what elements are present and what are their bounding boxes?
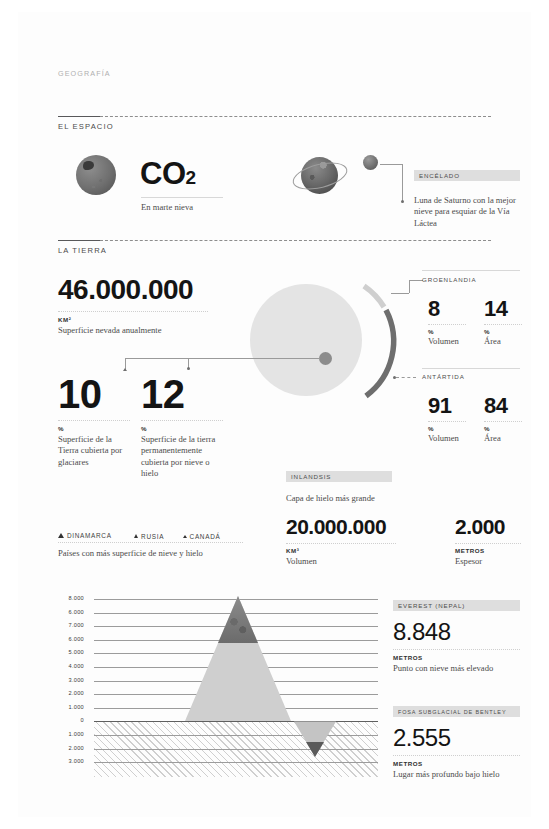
encelado-caption: Luna de Saturno con la mejor nieve para …	[414, 195, 520, 229]
co2-subscript: 2	[186, 167, 196, 188]
ticklabel-5: 4.000	[58, 663, 84, 669]
antartida-rule	[422, 368, 520, 369]
country-item-rusia: RUSIA	[134, 533, 164, 540]
leader-dot-12	[187, 367, 190, 370]
tag-groenlandia-label: GROENLANDIA	[422, 276, 476, 283]
mars-moon-icon	[76, 155, 116, 195]
countries-caption: Países con más superficie de nieve y hie…	[58, 548, 268, 559]
elevation-chart: 8.000 6.000 7.000 6.000 5.000 4.000 3.00…	[58, 590, 378, 780]
everest-unit: METROS	[393, 654, 423, 661]
inlandsis-thickness-value: 2.000	[455, 515, 505, 539]
inlandsis-volume-value: 20.000.000	[286, 515, 386, 539]
greenland-volume-label: Volumen	[428, 336, 459, 347]
greenland-volume-value: 8	[428, 296, 440, 322]
everest-snowcap-shape	[218, 596, 258, 643]
ticklabel-2: 7.000	[58, 622, 84, 628]
ticklabel-0: 8.000	[58, 595, 84, 601]
tag-antartida: ANTÁRTIDA	[422, 371, 520, 382]
everest-value: 8.848	[393, 618, 451, 646]
ticklabel-11: 2.000	[58, 745, 84, 751]
groenlandia-rule	[422, 270, 520, 271]
enceladus-leader-v	[402, 164, 403, 202]
tag-groenlandia: GROENLANDIA	[422, 274, 520, 285]
snow-area-value: 46.000.000	[58, 274, 193, 306]
antarctica-volume-label: Volumen	[428, 433, 459, 444]
snow-area-divider	[58, 311, 208, 312]
infographic-page: GEOGRAFÍA EL ESPACIO CO2 En marte nieva …	[0, 0, 549, 829]
antarctica-leader-dot	[393, 376, 396, 379]
bentley-value: 2.555	[393, 724, 451, 752]
tag-bentley: FOSA SUBGLACIAL DE BENTLEY	[393, 706, 520, 717]
co2-label: CO	[140, 156, 186, 191]
inlandsis-caption: Capa de hielo más grande	[286, 493, 466, 504]
arc-greenland	[364, 286, 384, 307]
greenland-volume-unit: %	[428, 328, 434, 335]
triangle-large-icon	[58, 533, 64, 538]
inlandsis-volume-label: Volumen	[286, 556, 317, 567]
enceladus-icon	[363, 155, 378, 170]
ice-arcs	[318, 274, 428, 409]
saturn-icon	[292, 152, 346, 202]
tag-inlandsis: INLANDSIS	[286, 471, 392, 482]
snow-area-unit: KM²	[58, 316, 71, 323]
antarctica-volume-unit: %	[428, 425, 434, 432]
antarctica-area-value: 84	[484, 393, 507, 419]
section-rule-earth-solid	[58, 240, 100, 241]
antarctica-volume-divider	[428, 421, 466, 422]
permanent-unit: %	[141, 425, 147, 432]
inlandsis-thickness-divider	[455, 543, 521, 544]
tag-encelado-label: ENCÉLADO	[414, 172, 460, 179]
ticklabel-9: 0	[58, 717, 84, 723]
country-label-dinamarca: DINAMARCA	[67, 532, 112, 539]
greenland-leader-v	[409, 280, 410, 293]
countries-list: DINAMARCA RUSIA CANADÁ	[58, 524, 258, 542]
greenland-area-label: Área	[484, 336, 501, 347]
tag-antartida-label: ANTÁRTIDA	[422, 373, 465, 380]
gridline-8000	[94, 599, 378, 600]
ticklabel-7: 2.000	[58, 690, 84, 696]
inlandsis-volume-unit: KM³	[286, 547, 299, 554]
gridline-minus3000	[94, 762, 378, 763]
ticklabel-10: 1.000	[58, 731, 84, 737]
sheet: GEOGRAFÍA EL ESPACIO CO2 En marte nieva …	[18, 12, 531, 817]
greenland-leader-h2	[391, 293, 409, 294]
greenland-area-divider	[484, 324, 522, 325]
permanent-caption: Superficie de la tierra permanentemente …	[141, 434, 227, 480]
ticklabel-12: 3.000	[58, 758, 84, 764]
bentley-unit: METROS	[393, 760, 423, 767]
gridline-minus1000	[94, 735, 378, 736]
section-rule-space-dash	[100, 116, 491, 117]
ticklabel-6: 3.000	[58, 677, 84, 683]
antarctica-area-divider	[484, 421, 522, 422]
country-label-canada: CANADÁ	[190, 533, 221, 540]
countries-divider	[58, 542, 243, 543]
leader-arrow-10	[123, 368, 127, 371]
ticklabel-1: 6.000	[58, 609, 84, 615]
inlandsis-volume-divider	[286, 543, 396, 544]
tag-everest: EVEREST (NEPAL)	[393, 600, 520, 611]
greenland-leader-h	[409, 280, 423, 281]
page-title: GEOGRAFÍA	[58, 69, 111, 78]
inlandsis-thickness-unit: METROS	[455, 547, 485, 554]
greenland-volume-divider	[428, 324, 466, 325]
antarctica-area-unit: %	[484, 425, 490, 432]
enceladus-leader-h	[380, 164, 402, 165]
tag-bentley-label: FOSA SUBGLACIAL DE BENTLEY	[393, 709, 506, 715]
tag-encelado: ENCÉLADO	[414, 170, 520, 181]
permanent-value: 12	[141, 372, 185, 417]
antarctica-area-label: Área	[484, 433, 501, 444]
glaciers-caption: Superficie de la Tierra cubierta por gla…	[58, 434, 130, 468]
country-item-dinamarca: DINAMARCA	[58, 532, 112, 539]
antarctica-leader-h	[396, 377, 416, 378]
antarctica-volume-value: 91	[428, 393, 451, 419]
tag-everest-label: EVEREST (NEPAL)	[393, 602, 465, 609]
ticklabel-4: 5.000	[58, 649, 84, 655]
co2-caption: En marte nieva	[141, 202, 271, 213]
gridline-minus2000	[94, 749, 378, 750]
bentley-caption: Lugar más profundo bajo hielo	[393, 769, 538, 780]
bentley-divider	[393, 755, 520, 756]
co2-divider	[141, 197, 223, 198]
greenland-area-value: 14	[484, 296, 507, 322]
everest-divider	[393, 649, 520, 650]
section-rule-earth-dash	[100, 240, 491, 241]
